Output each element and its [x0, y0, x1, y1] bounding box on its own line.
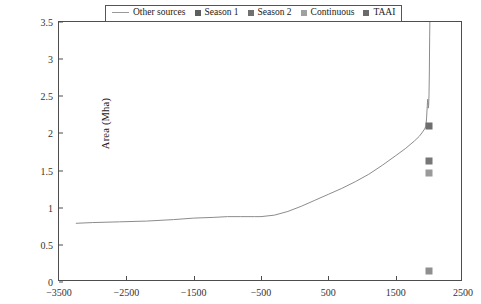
legend-entry: Continuous	[301, 8, 355, 18]
legend-entry: Season 1	[195, 8, 239, 18]
x-tick-label: 500	[321, 280, 336, 298]
data-point-marker	[426, 169, 433, 176]
x-tick-label: −2500	[114, 280, 140, 298]
legend-entry: Season 2	[248, 8, 292, 18]
data-point-marker	[426, 267, 433, 274]
legend-square-icon	[195, 10, 201, 16]
legend-entry: TAAI	[363, 8, 395, 18]
legend-label: Other sources	[133, 8, 186, 18]
legend-line-icon	[112, 12, 129, 13]
y-tick-label: 1.5	[41, 165, 60, 176]
series-line	[76, 22, 430, 223]
legend-label: Season 1	[205, 8, 239, 18]
data-point-marker	[426, 157, 433, 164]
legend-square-icon	[248, 10, 254, 16]
legend-label: Season 2	[258, 8, 292, 18]
chart-figure: Area (Mha) 00.511.522.533.5 −3500−2500−1…	[0, 0, 481, 304]
y-tick-label: 3	[48, 54, 59, 65]
line-series-other-sources	[59, 22, 461, 280]
x-tick-label: 1500	[386, 280, 406, 298]
plot-area: Area (Mha) 00.511.522.533.5 −3500−2500−1…	[58, 21, 462, 281]
y-tick-label: 2.5	[41, 91, 60, 102]
legend-label: TAAI	[373, 8, 395, 18]
y-tick-label: 3.5	[41, 17, 60, 28]
x-tick-label: −3500	[46, 280, 72, 298]
x-tick-label: −1500	[181, 280, 207, 298]
data-layer	[59, 22, 461, 280]
y-tick-label: 2	[48, 128, 59, 139]
legend-entry: Other sources	[112, 8, 186, 18]
legend-square-icon	[301, 10, 307, 16]
chart-legend: Other sourcesSeason 1Season 2ContinuousT…	[105, 5, 402, 22]
y-tick-label: 0.5	[41, 239, 60, 250]
data-point-marker	[426, 123, 433, 130]
y-tick-label: 1	[48, 202, 59, 213]
legend-label: Continuous	[311, 8, 355, 18]
x-tick-label: −500	[251, 280, 272, 298]
x-tick-label: 2500	[453, 280, 473, 298]
legend-square-icon	[363, 10, 369, 16]
